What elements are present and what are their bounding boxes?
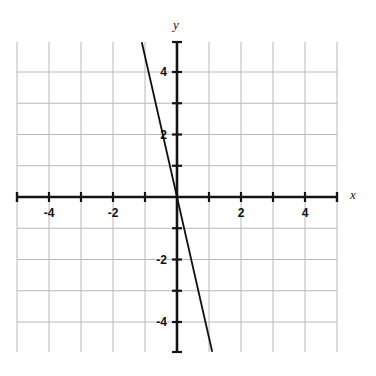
x-tick-label: 2 xyxy=(238,206,245,220)
plot-background xyxy=(0,0,376,376)
graph-figure: -4-22442-2-4 x y xyxy=(0,0,376,376)
y-axis-label: y xyxy=(171,17,179,32)
y-tick-label: 4 xyxy=(160,65,167,79)
y-tick-label: -4 xyxy=(156,315,167,329)
x-tick-label: -4 xyxy=(44,206,55,220)
y-tick-label: -2 xyxy=(156,253,167,267)
x-tick-label: 4 xyxy=(302,206,309,220)
x-axis-label: x xyxy=(349,187,356,202)
coordinate-plane: -4-22442-2-4 x y xyxy=(0,0,376,376)
x-tick-label: -2 xyxy=(108,206,119,220)
